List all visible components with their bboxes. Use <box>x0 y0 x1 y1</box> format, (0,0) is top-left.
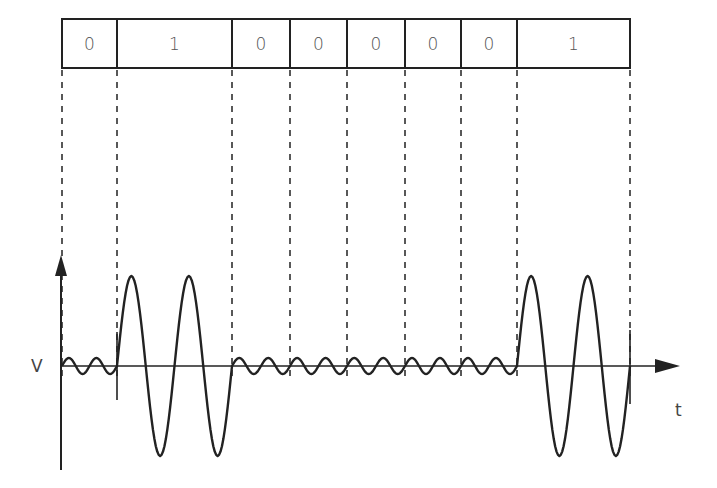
x-axis-label: t <box>675 400 682 420</box>
bit-cell-label: 0 <box>256 34 267 54</box>
y-axis-label: V <box>31 356 43 376</box>
bit-cell-label: 1 <box>169 34 180 54</box>
bit-cell-label: 1 <box>568 34 579 54</box>
y-axis-arrow-icon <box>55 255 67 276</box>
bit-cell-label: 0 <box>371 34 382 54</box>
bit-cell-label: 0 <box>313 34 324 54</box>
ask-diagram: 01000001 V t <box>0 0 717 488</box>
bit-cell-label: 0 <box>428 34 439 54</box>
bit-cell-label: 0 <box>84 34 95 54</box>
x-axis-arrow-icon <box>655 359 680 373</box>
bit-cell-label: 0 <box>484 34 495 54</box>
axes: V t <box>31 255 682 470</box>
bit-sequence-row: 01000001 <box>62 19 630 68</box>
